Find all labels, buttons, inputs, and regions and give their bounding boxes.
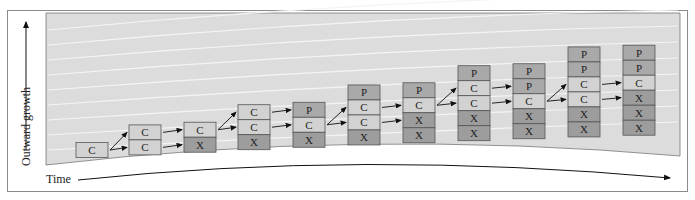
cell-label: X — [305, 134, 313, 146]
cell-label: P — [526, 65, 532, 77]
cell-stack: PPCXX — [513, 64, 545, 139]
cell-label: P — [471, 67, 477, 79]
cell-label: X — [580, 108, 588, 120]
cell-label: X — [635, 92, 643, 104]
x-axis-arrow — [78, 164, 670, 180]
cell-label: P — [636, 47, 642, 59]
cell-stack: PCCX — [348, 85, 380, 145]
cambium-growth-diagram: CCCCXCCXPCXPCCXPCXXPCCXXPPCXXPPCCXXPPCXX… — [0, 0, 695, 200]
cell-label: C — [580, 93, 587, 105]
cell-label: X — [635, 122, 643, 134]
y-axis-label: Outward growth — [19, 87, 33, 166]
cell-label: C — [141, 126, 148, 138]
cell-label: C — [250, 121, 257, 133]
cell-label: C — [360, 101, 367, 113]
cell-label: C — [525, 95, 532, 107]
cell-label: P — [636, 62, 642, 74]
cell-label: X — [470, 127, 478, 139]
cell-label: P — [416, 84, 422, 96]
cell-label: X — [415, 129, 423, 141]
cell-label: C — [470, 82, 477, 94]
cell-label: X — [470, 112, 478, 124]
cell-label: C — [360, 116, 367, 128]
cell-stack: PCXX — [403, 83, 435, 143]
cell-label: C — [415, 99, 422, 111]
x-axis-label: Time — [46, 172, 71, 186]
cell-stack: PCX — [293, 102, 325, 147]
cell-label: P — [581, 48, 587, 60]
cell-label: C — [141, 141, 148, 153]
cell-label: X — [635, 107, 643, 119]
cell-stack: CCX — [238, 105, 270, 150]
cell-label: C — [580, 78, 587, 90]
cell-label: C — [196, 124, 203, 136]
cell-label: C — [305, 119, 312, 131]
cell-label: X — [525, 125, 533, 137]
cell-label: C — [88, 144, 95, 156]
cell-label: X — [525, 110, 533, 122]
cell-label: C — [635, 77, 642, 89]
cell-stack: PPCCXX — [568, 47, 600, 137]
cell-label: X — [580, 123, 588, 135]
cell-label: X — [415, 114, 423, 126]
cell-label: P — [526, 80, 532, 92]
cell-label: X — [360, 131, 368, 143]
cell-stack: PCCXX — [458, 66, 490, 141]
cell-label: C — [250, 106, 257, 118]
cell-label: C — [470, 97, 477, 109]
cell-label: P — [306, 104, 312, 116]
cell-label: P — [361, 86, 367, 98]
cell-stack: C — [76, 143, 108, 158]
cell-stack: CC — [129, 125, 161, 155]
cell-stack: PPCXXX — [623, 45, 655, 135]
cell-label: X — [196, 139, 204, 151]
cell-stack: CX — [184, 122, 216, 152]
cell-label: P — [581, 63, 587, 75]
cell-label: X — [250, 136, 258, 148]
